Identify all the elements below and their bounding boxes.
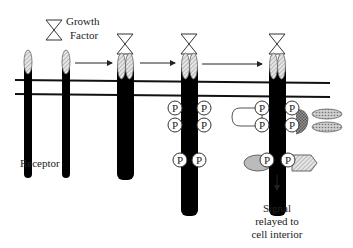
phosphate-label: P xyxy=(199,119,209,131)
growth-factor-label-line1: Growth xyxy=(66,15,100,27)
signaling-protein-adaptor xyxy=(296,109,342,134)
signal-label-line3: cell interior xyxy=(237,228,317,240)
signal-label-line2: relayed to xyxy=(237,215,317,227)
phosphate-label: P xyxy=(287,119,297,131)
phosphate-label: P xyxy=(257,102,267,114)
phosphate-label: P xyxy=(170,119,180,131)
receptor-label: Receptor xyxy=(20,157,60,169)
phosphate-label: P xyxy=(283,154,293,166)
receptor-dimer xyxy=(117,34,134,180)
phosphate-label: P xyxy=(287,102,297,114)
phosphate-label: P xyxy=(199,102,209,114)
growth-factor-icon xyxy=(46,20,62,40)
signaling-protein-pentagon xyxy=(292,155,317,171)
phosphate-label: P xyxy=(175,154,185,166)
phosphate-label: P xyxy=(257,119,267,131)
phosphate-label: P xyxy=(194,154,204,166)
growth-factor-label-line2: Factor xyxy=(70,29,98,41)
phosphate-label: P xyxy=(262,154,272,166)
receptor-monomer-right xyxy=(62,50,70,178)
phosphate-label: P xyxy=(170,102,180,114)
receptor-phosphorylated xyxy=(181,34,198,216)
signal-label-line1: Signal xyxy=(237,202,317,214)
